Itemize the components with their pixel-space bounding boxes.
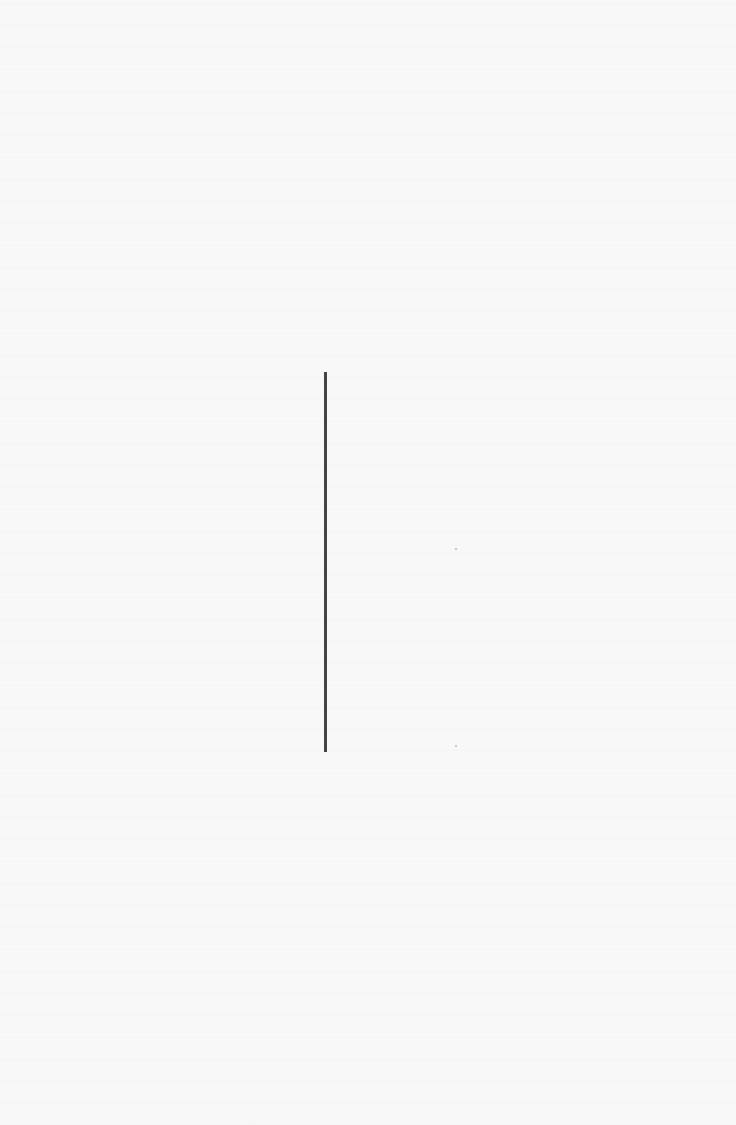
speck xyxy=(455,745,457,747)
vertical-rule xyxy=(324,372,327,752)
speck xyxy=(455,548,457,550)
scanned-page xyxy=(0,0,736,1125)
